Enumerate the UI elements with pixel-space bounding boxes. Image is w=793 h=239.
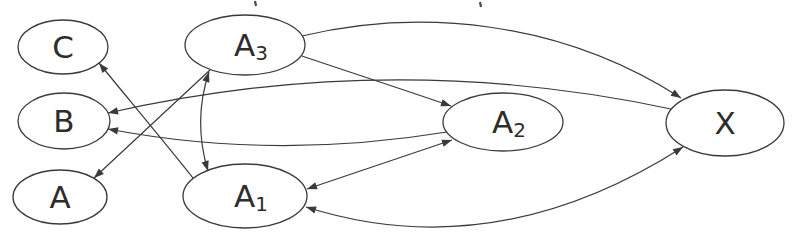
node-X-label: X (714, 105, 735, 141)
node-B-label: B (53, 103, 74, 139)
node-A-label: A (49, 179, 70, 215)
crop-artifact-1 (255, 1, 256, 6)
arrowhead-into-X (673, 147, 683, 156)
edge-A3-X (302, 22, 681, 98)
edge-A3-A (94, 70, 210, 178)
edge-A1-X (306, 147, 683, 227)
arrowhead-into-A2 (440, 99, 451, 106)
dag-canvas: CBAA3A1A2X (0, 0, 793, 239)
arrowhead-into-B (108, 127, 119, 134)
arrowhead-into-C (99, 63, 108, 73)
arrowhead-into-X (671, 89, 681, 98)
edge-A3-A1 (201, 72, 209, 171)
node-C-label: C (52, 29, 74, 65)
edge-A3-A2 (302, 56, 451, 106)
arrowhead-into-A1 (306, 206, 317, 213)
arrowhead-into-A1 (202, 160, 209, 171)
arrowhead-into-A2 (441, 140, 452, 147)
edge-A2-B (108, 129, 447, 146)
figure-canvas: CBAA3A1A2X (0, 0, 793, 239)
edge-A1-A2 (307, 140, 452, 189)
arrowhead-into-B (108, 107, 119, 114)
crop-artifact-2 (480, 2, 481, 7)
arrowhead-into-A1 (307, 182, 318, 189)
